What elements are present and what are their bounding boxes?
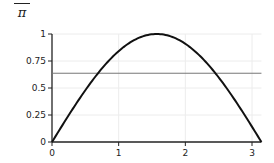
- y-tick-label: 0.75: [26, 56, 46, 66]
- y-tick-label: 0: [40, 137, 46, 147]
- tick-labels: 00.250.50.7510123: [26, 29, 255, 158]
- y-tick-label: 1: [40, 29, 46, 39]
- y-tick-label: 0.5: [32, 83, 46, 93]
- x-tick-label: 3: [249, 148, 255, 158]
- x-tick-label: 1: [116, 148, 122, 158]
- x-tick-label: 2: [182, 148, 188, 158]
- x-tick-label: 0: [49, 148, 55, 158]
- grid-lines: [52, 34, 261, 142]
- sine-chart: 00.250.50.7510123: [0, 0, 274, 163]
- axes: [48, 34, 261, 146]
- y-tick-label: 0.25: [26, 110, 46, 120]
